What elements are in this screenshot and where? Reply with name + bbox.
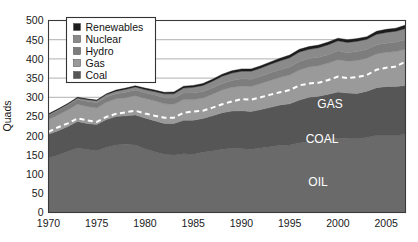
legend-label-nuclear: Nuclear bbox=[86, 33, 123, 45]
chart-canvas: 050100150200250300350400450500 197019751… bbox=[0, 0, 418, 242]
inline-label-coal: COAL bbox=[306, 132, 339, 146]
x-tick-label: 1995 bbox=[278, 217, 302, 229]
y-tick-label: 150 bbox=[26, 149, 44, 161]
y-tick-label: 500 bbox=[26, 14, 44, 26]
legend-swatch-coal bbox=[74, 72, 81, 79]
y-tick-label: 250 bbox=[26, 110, 44, 122]
x-tick-label: 1975 bbox=[85, 217, 109, 229]
legend-label-coal: Coal bbox=[86, 69, 108, 81]
legend-swatch-renewables bbox=[74, 24, 81, 31]
x-tick-label: 2000 bbox=[326, 217, 350, 229]
stacked-area-chart: 050100150200250300350400450500 197019751… bbox=[0, 0, 418, 242]
chart-legend: RenewablesNuclearHydroGasCoal bbox=[67, 18, 156, 83]
y-tick-label: 350 bbox=[26, 72, 44, 84]
legend-swatch-hydro bbox=[74, 48, 81, 55]
x-tick-label: 1990 bbox=[230, 217, 254, 229]
y-axis-title: Quads bbox=[1, 101, 13, 132]
y-tick-label: 200 bbox=[26, 130, 44, 142]
legend-label-gas: Gas bbox=[86, 57, 105, 69]
legend-label-hydro: Hydro bbox=[86, 45, 114, 57]
x-tick-label: 1980 bbox=[133, 217, 157, 229]
y-tick-label: 50 bbox=[32, 187, 44, 199]
y-tick-label: 400 bbox=[26, 53, 44, 65]
legend-swatch-nuclear bbox=[74, 36, 81, 43]
x-tick-label: 2005 bbox=[375, 217, 399, 229]
y-tick-label: 450 bbox=[26, 34, 44, 46]
inline-label-gas: GAS bbox=[317, 97, 342, 111]
y-tick-label: 300 bbox=[26, 91, 44, 103]
x-tick-label: 1985 bbox=[182, 217, 206, 229]
legend-label-renewables: Renewables bbox=[86, 21, 144, 33]
inline-label-oil: OIL bbox=[308, 175, 328, 189]
legend-swatch-gas bbox=[74, 60, 81, 67]
y-tick-label: 100 bbox=[26, 168, 44, 180]
x-tick-label: 1970 bbox=[37, 217, 61, 229]
